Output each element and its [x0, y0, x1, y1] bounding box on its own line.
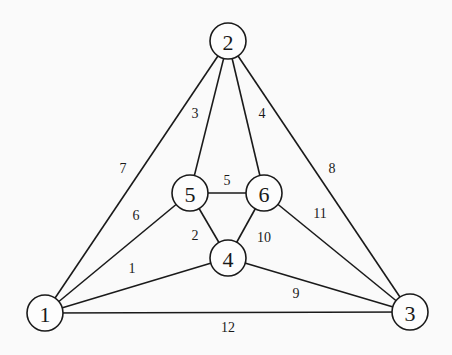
node-label: 6 — [259, 182, 270, 207]
edge-label: 2 — [192, 228, 199, 243]
edge-label: 7 — [120, 161, 127, 176]
node-label: 5 — [185, 182, 196, 207]
edge-labels-layer: 123456789101112 — [120, 106, 336, 335]
edge-label: 12 — [221, 320, 235, 335]
node-4: 4 — [210, 240, 246, 276]
node-5: 5 — [172, 175, 208, 211]
edge-label: 1 — [129, 261, 136, 276]
graph-diagram: 123456789101112 123456 — [0, 0, 452, 355]
node-label: 1 — [40, 302, 51, 327]
edge-6-3 — [264, 193, 410, 312]
edge-1-4 — [45, 258, 228, 313]
node-label: 2 — [223, 30, 234, 55]
edge-1-3 — [45, 312, 410, 313]
node-1: 1 — [27, 295, 63, 331]
edge-1-2 — [45, 41, 228, 313]
edge-label: 5 — [224, 173, 231, 188]
edge-label: 4 — [259, 106, 266, 121]
edge-label: 11 — [313, 206, 326, 221]
node-2: 2 — [210, 23, 246, 59]
node-label: 3 — [405, 301, 416, 326]
edge-label: 6 — [133, 208, 140, 223]
edge-label: 10 — [257, 230, 271, 245]
node-3: 3 — [392, 294, 428, 330]
edge-4-3 — [228, 258, 410, 312]
node-6: 6 — [246, 175, 282, 211]
node-label: 4 — [223, 247, 234, 272]
edge-1-5 — [45, 193, 190, 313]
graph-svg: 123456789101112 123456 — [0, 0, 452, 355]
edge-label: 3 — [192, 106, 199, 121]
edge-label: 8 — [329, 161, 336, 176]
edge-label: 9 — [293, 286, 300, 301]
